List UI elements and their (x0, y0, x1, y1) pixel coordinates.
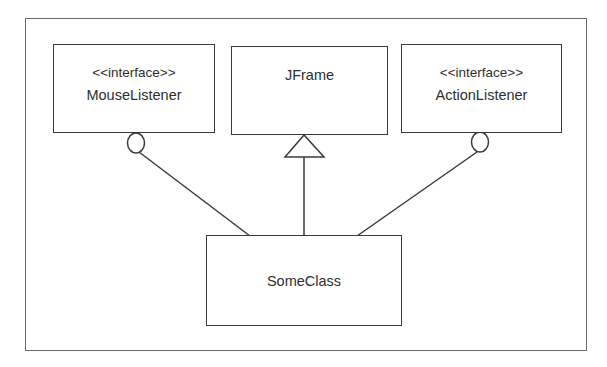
action-listener-lollipop-icon (357, 132, 489, 236)
inheritance-triangle-icon (285, 135, 324, 236)
stereotype-label: <<interface>> (402, 62, 561, 84)
class-name: JFrame (232, 64, 387, 86)
class-box-action-listener: <<interface>> ActionListener (401, 44, 562, 133)
mouse-listener-lollipop-icon (128, 133, 251, 236)
class-name: MouseListener (54, 84, 214, 106)
class-name: SomeClass (267, 270, 341, 292)
class-name: ActionListener (402, 84, 561, 106)
class-box-some-class: SomeClass (206, 235, 402, 326)
class-box-mouse-listener: <<interface>> MouseListener (53, 44, 215, 133)
stereotype-label: <<interface>> (54, 62, 214, 84)
class-box-jframe: JFrame (231, 46, 388, 135)
